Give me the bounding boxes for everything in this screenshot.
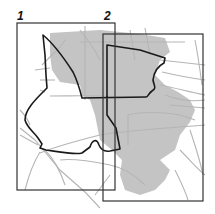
map-canvas <box>0 0 215 214</box>
frame-1-label: 1 <box>17 10 24 22</box>
map-diagram: 1 2 <box>0 0 215 214</box>
shaded-region <box>50 30 195 195</box>
frame-2-label: 2 <box>104 10 111 22</box>
